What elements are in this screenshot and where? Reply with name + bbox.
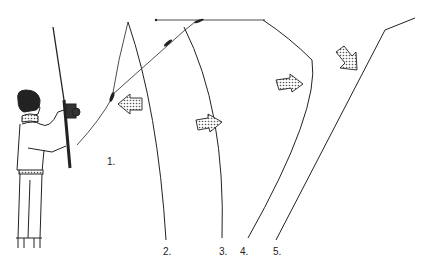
arrow-right-icon (196, 114, 222, 132)
rod-positions (128, 18, 415, 240)
angler-figure (16, 90, 66, 248)
illustration (0, 0, 425, 268)
label-4: 4. (240, 246, 248, 257)
rod-position-2 (128, 22, 166, 240)
arrow-right-icon-2 (276, 74, 303, 92)
arrow-down-right-icon (336, 46, 357, 70)
label-5: 5. (273, 246, 281, 257)
arrow-left-icon (118, 94, 142, 114)
sinkers (109, 18, 205, 102)
rod-position-4 (248, 20, 313, 238)
label-3: 3. (219, 246, 227, 257)
label-2: 2. (163, 246, 171, 257)
label-1: 1. (107, 156, 115, 167)
fishing-rod (53, 27, 80, 168)
casting-diagram: 1. 2. 3. 4. 5. (0, 0, 425, 268)
cast-line (77, 20, 265, 145)
motion-arrows (118, 46, 357, 132)
rod-position-3 (184, 27, 222, 238)
